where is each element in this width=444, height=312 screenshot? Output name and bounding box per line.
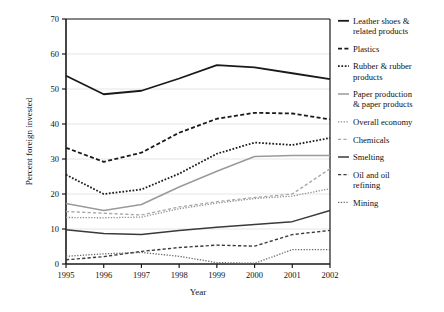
legend-label-0-cont[interactable]: related products: [353, 26, 409, 36]
series-line-0: [66, 65, 330, 94]
x-tick-label: 1995: [58, 270, 75, 280]
legend-label-7-cont[interactable]: refining: [353, 180, 381, 190]
data-series-lines: [66, 65, 330, 263]
x-axis-title: Year: [190, 287, 207, 297]
y-tick-label: 60: [51, 49, 60, 59]
y-axis-title: Percent foreign invested: [24, 97, 34, 185]
chart-figure: 010203040506070 199519961997199819992000…: [0, 0, 444, 312]
chart-legend: Leather shoes &related productsPlasticsR…: [338, 16, 413, 208]
x-tick-label: 1998: [171, 270, 188, 280]
y-tick-label: 50: [51, 84, 60, 94]
y-tick-label: 20: [51, 189, 60, 199]
x-tick-label: 1997: [133, 270, 150, 280]
x-tick-label: 2000: [246, 270, 263, 280]
legend-label-5[interactable]: Chemicals: [353, 135, 390, 145]
legend-label-4[interactable]: Overall economy: [353, 117, 413, 127]
legend-label-0[interactable]: Leather shoes &: [353, 16, 410, 26]
legend-label-2[interactable]: Rubber & rubber: [353, 61, 412, 71]
legend-label-3[interactable]: Paper production: [353, 89, 413, 99]
legend-label-1[interactable]: Plastics: [353, 44, 380, 54]
series-line-7: [66, 230, 330, 259]
axis-ticks: [62, 19, 330, 268]
x-tick-label: 1996: [95, 270, 112, 280]
legend-label-6[interactable]: Smelting: [353, 152, 385, 162]
series-line-3: [66, 156, 330, 211]
gridlines: [66, 19, 330, 229]
legend-label-3-cont[interactable]: & paper products: [353, 99, 413, 109]
series-line-6: [66, 210, 330, 234]
series-line-1: [66, 113, 330, 162]
y-tick-label: 0: [55, 259, 59, 269]
x-tick-label: 2002: [322, 270, 339, 280]
legend-label-2-cont[interactable]: products: [353, 72, 383, 82]
legend-label-7[interactable]: Oil and oil: [353, 170, 390, 180]
line-chart: 010203040506070 199519961997199819992000…: [0, 0, 444, 312]
y-tick-label: 10: [51, 224, 60, 234]
y-tick-label: 40: [51, 119, 60, 129]
x-axis-tick-labels: 19951996199719981999200020012002: [58, 270, 339, 280]
axes: [66, 19, 330, 264]
x-tick-label: 2001: [284, 270, 301, 280]
y-axis-tick-labels: 010203040506070: [51, 14, 60, 269]
y-tick-label: 70: [51, 14, 60, 24]
x-tick-label: 1999: [208, 270, 225, 280]
series-line-5: [66, 169, 330, 215]
y-tick-label: 30: [51, 154, 60, 164]
legend-label-8[interactable]: Mining: [353, 198, 379, 208]
series-line-2: [66, 138, 330, 194]
